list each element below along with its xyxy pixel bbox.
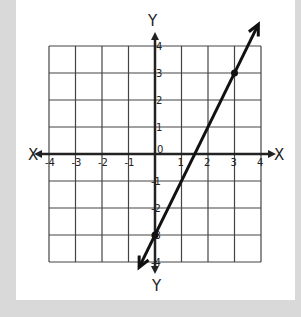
y-tick-label: 4 — [156, 41, 162, 52]
x-tick-label: -2 — [98, 157, 108, 168]
coordinate-plane: -4-3-2-112344321-1-2-3-40 X X Y Y — [0, 0, 301, 317]
x-tick-label: 3 — [231, 157, 237, 168]
y-tick-label: -1 — [151, 176, 161, 187]
origin-label: 0 — [157, 144, 163, 155]
x-axis-label-left: X — [28, 146, 38, 164]
x-tick-label: -1 — [125, 157, 135, 168]
data-point — [152, 232, 159, 239]
y-tick-label: 3 — [156, 68, 162, 79]
y-tick-label: -4 — [151, 257, 161, 268]
y-tick-label: 2 — [156, 95, 162, 106]
data-point — [231, 70, 238, 77]
y-axis-label-bottom: Y — [151, 277, 162, 295]
x-tick-label: 1 — [178, 157, 184, 168]
y-axis-top-arrow-icon — [151, 32, 159, 40]
x-tick-label: -3 — [72, 157, 82, 168]
x-axis-label-right: X — [274, 146, 284, 164]
y-axis-label-top: Y — [147, 12, 158, 30]
y-tick-label: 1 — [156, 122, 162, 133]
x-tick-label: 2 — [204, 157, 210, 168]
x-tick-label: 4 — [257, 157, 263, 168]
x-tick-label: -4 — [45, 157, 55, 168]
y-tick-label: -2 — [151, 203, 161, 214]
